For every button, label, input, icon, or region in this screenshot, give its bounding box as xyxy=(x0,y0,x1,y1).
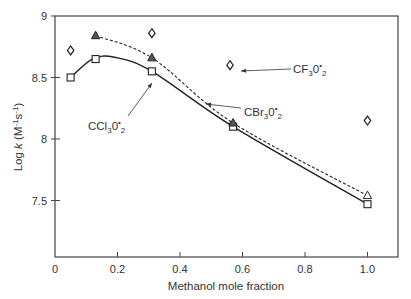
square-marker xyxy=(67,74,74,81)
triangle-marker xyxy=(91,31,99,39)
ccl3o2-label: CCl30•2 xyxy=(88,118,126,135)
cf3o2-arrow xyxy=(241,69,291,71)
x-tick-label: 0.4 xyxy=(172,263,187,275)
ccl3o2-arrow xyxy=(128,83,152,116)
triangle-marker xyxy=(148,53,156,61)
y-tick-label: 7.5 xyxy=(32,195,47,207)
chart: 00.20.40.60.81.0 7.588.59 CF30•2CBr30•2C… xyxy=(0,0,411,299)
x-axis-label: Methanol mole fraction xyxy=(168,280,284,292)
cbr3o2-label: CBr30•2 xyxy=(244,104,282,121)
triangle-marker xyxy=(363,191,371,199)
y-axis: 7.588.59 xyxy=(32,10,60,207)
x-tick-label: 0.2 xyxy=(110,263,125,275)
plot-border xyxy=(55,16,398,257)
y-tick-label: 9 xyxy=(41,10,47,22)
square-marker xyxy=(148,68,155,75)
square-marker xyxy=(92,56,99,63)
x-tick-label: 0 xyxy=(52,263,58,275)
x-tick-label: 1.0 xyxy=(360,263,375,275)
plot-frame xyxy=(55,16,398,257)
diamond-marker xyxy=(149,29,155,38)
x-tick-label: 0.8 xyxy=(297,263,312,275)
x-tick-label: 0.6 xyxy=(235,263,250,275)
cbr3o2-fit-line xyxy=(96,36,368,196)
y-tick-label: 8.5 xyxy=(32,72,47,84)
diamond-marker xyxy=(364,116,370,125)
cf3o2-label: CF30•2 xyxy=(293,61,327,78)
y-tick-label: 8 xyxy=(41,133,47,145)
diamond-marker xyxy=(227,61,233,70)
triangle-marker xyxy=(229,119,237,127)
series-annotations: CF30•2CBr30•2CCl30•2 xyxy=(88,61,327,135)
square-marker xyxy=(364,201,371,208)
diamond-marker xyxy=(67,46,73,55)
cf3o2-arrow-head xyxy=(241,69,246,73)
x-axis: 00.20.40.60.81.0 xyxy=(52,252,375,275)
y-axis-label: Log k (M-1s-1) xyxy=(11,103,24,172)
ccl3o2-arrow-head xyxy=(147,83,152,88)
cbr3o2-arrow xyxy=(206,104,241,108)
